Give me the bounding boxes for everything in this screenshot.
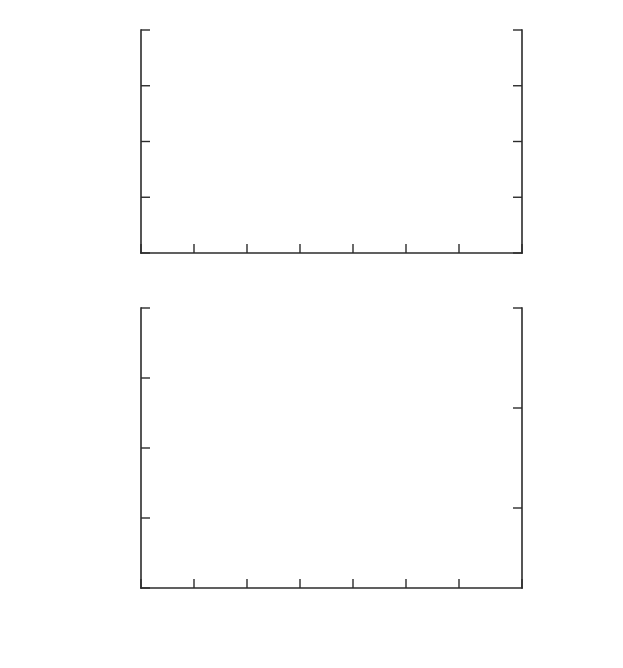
figure-root	[0, 0, 623, 668]
bottom-left-yticks	[141, 308, 150, 588]
bottom-xticks	[141, 579, 522, 588]
melt-production-chart	[0, 280, 623, 668]
bottom-right-yticks	[513, 308, 522, 508]
age-difference-chart	[0, 0, 623, 280]
top-left-yticks	[141, 30, 150, 253]
top-xticks	[141, 244, 522, 253]
top-right-yticks	[513, 30, 522, 253]
